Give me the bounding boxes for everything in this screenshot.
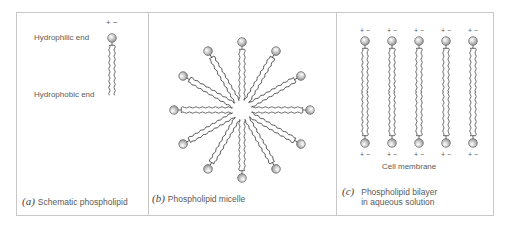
caption-b-letter: (b) [152, 192, 165, 204]
caption-a-letter: (a) [22, 195, 35, 207]
svg-text:+ −: + − [468, 27, 478, 34]
caption-a-text: Schematic phospholipid [38, 197, 128, 207]
svg-text:+ −: + − [414, 27, 424, 34]
caption-b-text: Phospholipid micelle [168, 194, 246, 204]
panel-b-micelle [170, 38, 315, 183]
cell-membrane-label: Cell membrane [382, 162, 436, 171]
caption-c-letter: (c) [342, 186, 354, 196]
hydrophilic-end-label: Hydrophilic end [34, 33, 89, 42]
caption-c: (c) Phospholipid bilayer in aqueous solu… [342, 187, 437, 207]
svg-text:+ −: + − [441, 27, 451, 34]
charge-label: + − [106, 18, 118, 27]
svg-text:+ −: + − [441, 151, 451, 158]
caption-a: (a)Schematic phospholipid [22, 196, 128, 207]
hydrophobic-end-label: Hydrophobic end [34, 90, 94, 99]
svg-text:+ −: + − [414, 151, 424, 158]
svg-text:+ −: + − [360, 151, 370, 158]
caption-b: (b)Phospholipid micelle [152, 193, 245, 204]
panel-a-schematic-phospholipid [108, 34, 117, 96]
svg-text:+ −: + − [360, 27, 370, 34]
caption-c-line2: in aqueous solution [361, 197, 437, 207]
caption-c-line1: Phospholipid bilayer [361, 187, 437, 197]
svg-text:+ −: + − [387, 27, 397, 34]
panel-c-bilayer: + −+ −+ −+ −+ −+ −+ −+ −+ −+ − [360, 27, 478, 158]
svg-text:+ −: + − [387, 151, 397, 158]
svg-text:+ −: + − [468, 151, 478, 158]
